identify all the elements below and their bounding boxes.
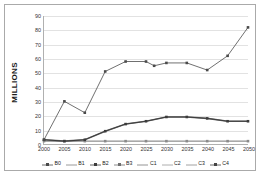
- data-point-marker: [63, 140, 66, 143]
- legend-line-marker-icon: [137, 154, 148, 172]
- data-point-marker: [206, 140, 209, 143]
- data-point-marker: [165, 62, 168, 65]
- legend-square-marker-icon: [90, 154, 101, 172]
- y-tick-label: 40: [35, 85, 41, 91]
- y-axis-title: MILLIONS: [7, 35, 21, 130]
- x-tick-label: 2005: [59, 146, 71, 152]
- y-tick-label: 60: [35, 56, 41, 62]
- legend-line-marker-icon: [66, 154, 77, 172]
- x-tick-label: 2015: [100, 146, 112, 152]
- y-tick-label: 90: [35, 13, 41, 19]
- legend-label: C1: [150, 160, 157, 166]
- legend-label: B2: [102, 160, 108, 166]
- data-point-marker: [206, 117, 209, 120]
- data-point-marker: [63, 100, 66, 103]
- chart-frame: MILLIONS 0102030405060708090 20002005201…: [4, 4, 256, 171]
- data-point-marker: [186, 140, 189, 143]
- x-tick-label: 2030: [161, 146, 173, 152]
- data-point-marker: [186, 116, 189, 119]
- legend-item[interactable]: B3: [114, 154, 133, 172]
- data-point-marker: [226, 120, 229, 123]
- legend-item[interactable]: C1: [137, 154, 156, 172]
- data-point-marker: [84, 111, 87, 114]
- data-point-marker: [206, 69, 209, 72]
- series-lines: [44, 16, 248, 144]
- data-point-marker: [247, 140, 250, 143]
- legend-item[interactable]: B0: [42, 154, 61, 172]
- legend-item[interactable]: C2: [162, 154, 181, 172]
- x-tick-label: 2020: [120, 146, 132, 152]
- legend-label: B0: [55, 160, 61, 166]
- x-tick-label: 2035: [182, 146, 194, 152]
- data-point-marker: [124, 60, 127, 63]
- data-point-marker: [165, 116, 168, 119]
- data-point-marker: [226, 140, 229, 143]
- legend-item[interactable]: C3: [186, 154, 205, 172]
- y-axis-title-label: MILLIONS: [10, 62, 19, 103]
- y-tick-label: 10: [35, 128, 41, 134]
- data-point-marker: [145, 140, 148, 143]
- y-tick-label: 80: [35, 27, 41, 33]
- data-point-marker: [226, 55, 229, 58]
- data-point-marker: [186, 62, 189, 65]
- x-tick-label: 2010: [79, 146, 91, 152]
- legend-label: B3: [126, 160, 132, 166]
- data-point-marker: [104, 130, 107, 133]
- data-point-marker: [145, 120, 148, 123]
- data-point-marker: [104, 140, 107, 143]
- legend-label: C2: [174, 160, 181, 166]
- legend-line-marker-icon: [186, 154, 197, 172]
- legend-square-marker-icon: [210, 154, 221, 172]
- data-point-marker: [247, 26, 250, 29]
- data-point-marker: [124, 140, 127, 143]
- legend-label: C3: [198, 160, 205, 166]
- x-tick-label: 2040: [202, 146, 214, 152]
- y-tick-label: 70: [35, 42, 41, 48]
- legend-item[interactable]: B1: [66, 154, 85, 172]
- series-line: [44, 27, 248, 139]
- x-tick-label: 2050: [243, 146, 255, 152]
- data-point-marker: [104, 70, 107, 73]
- legend-item[interactable]: B2: [90, 154, 109, 172]
- legend-line-marker-icon: [162, 154, 173, 172]
- data-point-marker: [124, 123, 127, 126]
- data-point-marker: [145, 60, 148, 63]
- legend-square-marker-icon: [42, 154, 53, 172]
- legend-item[interactable]: C4: [210, 154, 229, 172]
- y-tick-label: 50: [35, 70, 41, 76]
- chart-legend: B0B1B2B3C1C2C3C4: [33, 157, 238, 169]
- data-point-marker: [153, 64, 156, 67]
- legend-square-marker-icon: [114, 154, 125, 172]
- data-point-marker: [43, 138, 46, 141]
- data-point-marker: [84, 138, 87, 141]
- legend-label: B1: [78, 160, 84, 166]
- plot-area: 0102030405060708090 20002005201020152020…: [43, 16, 248, 145]
- data-point-marker: [247, 120, 250, 123]
- legend-label: C4: [222, 160, 229, 166]
- x-tick-label: 2045: [223, 146, 235, 152]
- x-tick-label: 2025: [141, 146, 153, 152]
- data-point-marker: [165, 140, 168, 143]
- y-tick-label: 30: [35, 99, 41, 105]
- y-tick-label: 20: [35, 113, 41, 119]
- x-tick-label: 2000: [38, 146, 50, 152]
